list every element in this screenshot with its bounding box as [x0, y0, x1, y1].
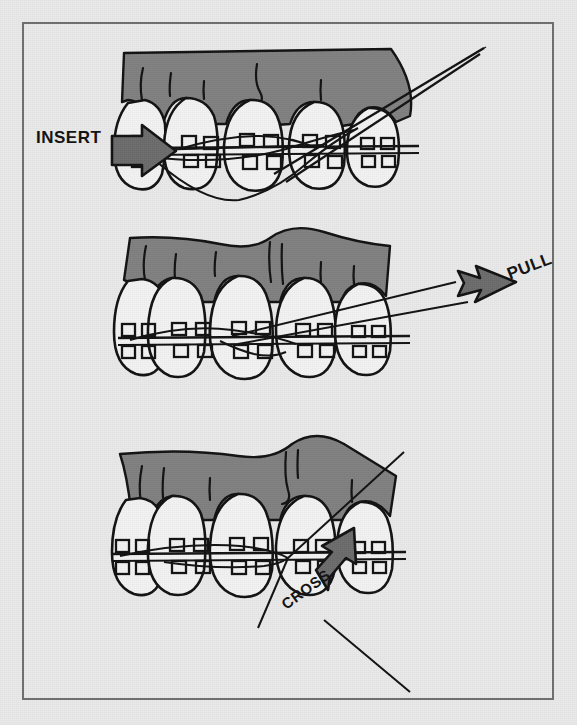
panel-cross-illustration [24, 434, 556, 702]
label-insert: INSERT [36, 128, 101, 148]
figure-page: INSERT PULL CROSS [0, 0, 577, 725]
panel-cross [24, 434, 556, 702]
panel-insert-illustration [24, 24, 556, 234]
tooth [335, 284, 391, 375]
panel-insert [24, 24, 556, 234]
panel-pull-illustration [24, 224, 556, 434]
panel-pull [24, 224, 556, 434]
tooth [164, 98, 218, 189]
